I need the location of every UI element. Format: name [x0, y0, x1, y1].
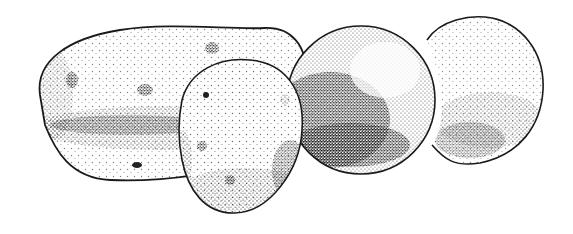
illustration-canvas: Stippled ink illustration of four potato… [0, 0, 573, 234]
potatoes-illustration [0, 0, 573, 234]
small-round-potato-front [172, 55, 310, 220]
light-round-potato [420, 10, 550, 170]
